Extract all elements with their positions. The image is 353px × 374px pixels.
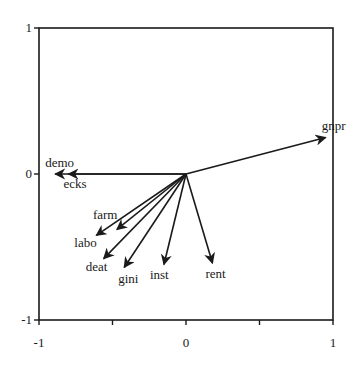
x-tick-label: 0: [183, 335, 190, 350]
y-tick-label: -1: [21, 312, 32, 327]
vector-farm: [117, 174, 186, 229]
vector-labels: gnprdemoecksfarmlabodeatginiinstrent: [45, 118, 346, 287]
vector-label-inst: inst: [150, 267, 169, 282]
vector-label-gini: gini: [118, 271, 139, 286]
vector-label-farm: farm: [93, 207, 118, 222]
vector-rent: [186, 174, 212, 263]
x-tick-label: -1: [34, 335, 45, 350]
vector-label-gnpr: gnpr: [322, 118, 347, 133]
vector-label-rent: rent: [205, 266, 226, 281]
vector-label-ecks: ecks: [63, 176, 86, 191]
y-tick-label: 0: [26, 166, 33, 181]
vector-label-deat: deat: [86, 259, 108, 274]
x-tick-label: 1: [330, 335, 337, 350]
vector-gnpr: [186, 138, 326, 175]
y-tick-label: 1: [26, 20, 33, 35]
biplot-chart: -101-101 gnprdemoecksfarmlabodeatginiins…: [0, 0, 353, 374]
vector-label-labo: labo: [74, 235, 96, 250]
vector-gini: [124, 174, 186, 267]
vector-label-demo: demo: [45, 155, 74, 170]
